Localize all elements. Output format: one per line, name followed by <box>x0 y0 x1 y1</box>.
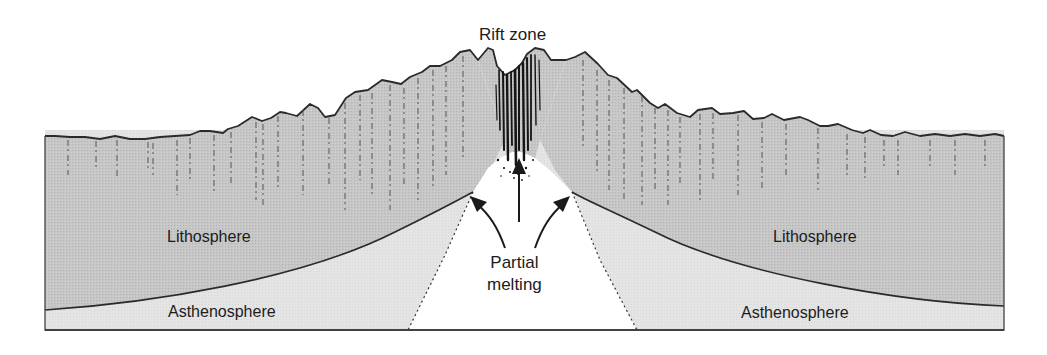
diagram-canvas <box>0 0 1047 355</box>
asthenosphere-left-label: Asthenosphere <box>168 304 276 320</box>
rift-zone-diagram: Rift zone Lithosphere Lithosphere Asthen… <box>0 0 1047 355</box>
partial-melting-label: Partial melting <box>487 252 542 296</box>
asthenosphere-right-label: Asthenosphere <box>741 305 849 321</box>
lithosphere-left-label: Lithosphere <box>167 229 251 245</box>
partial-melting-line2: melting <box>487 274 542 296</box>
lithosphere-right-label: Lithosphere <box>773 229 857 245</box>
rift-zone-label: Rift zone <box>479 26 546 43</box>
partial-melting-line1: Partial <box>487 252 542 274</box>
